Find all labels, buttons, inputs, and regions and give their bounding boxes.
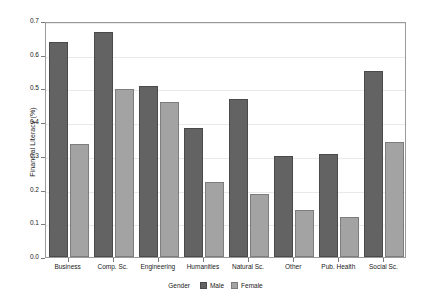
bar [274, 156, 293, 257]
y-tick: 0.0 [0, 258, 45, 259]
y-tick: 0.5 [0, 89, 45, 90]
y-tick: 0.6 [0, 56, 45, 57]
bar [160, 102, 179, 257]
plot-area [45, 22, 406, 258]
bar-chart: Financial Literacy (%) 0.00.10.20.30.40.… [0, 0, 431, 307]
bar [319, 154, 338, 257]
x-tick-label: Business [54, 263, 80, 270]
y-tick: 0.2 [0, 191, 45, 192]
y-tick: 0.1 [0, 224, 45, 225]
bar [70, 144, 89, 257]
legend-label-female: Female [241, 282, 263, 289]
x-tick-mark [203, 258, 204, 262]
legend-label-male: Male [210, 282, 224, 289]
y-tick-label: 0.5 [30, 84, 39, 91]
x-tick-label: Pub. Health [321, 263, 355, 270]
gridline [46, 23, 405, 24]
legend-swatch-female-icon [231, 282, 238, 289]
x-tick-label: Social Sc. [369, 263, 398, 270]
y-tick-label: 0.1 [30, 219, 39, 226]
bar [49, 42, 68, 257]
x-tick-label: Humanities [187, 263, 220, 270]
y-tick: 0.7 [0, 22, 45, 23]
bar [184, 128, 203, 257]
y-tick: 0.3 [0, 157, 45, 158]
x-tick-mark [248, 258, 249, 262]
y-tick-mark [41, 258, 45, 259]
bar [295, 210, 314, 257]
bar [94, 32, 113, 257]
x-tick-mark [158, 258, 159, 262]
x-tick-label: Comp. Sc. [98, 263, 128, 270]
bar [364, 71, 383, 257]
bar [229, 99, 248, 257]
legend-entry-female[interactable]: Female [231, 282, 263, 289]
x-tick-label: Natural Sc. [232, 263, 264, 270]
y-tick-label: 0.4 [30, 118, 39, 125]
x-tick-label: Engineering [140, 263, 175, 270]
x-tick-mark [113, 258, 114, 262]
y-tick-label: 0.3 [30, 152, 39, 159]
y-tick-label: 0.0 [30, 253, 39, 260]
y-tick: 0.4 [0, 123, 45, 124]
legend-swatch-male-icon [200, 282, 207, 289]
y-tick-label: 0.7 [30, 17, 39, 24]
bar [115, 89, 134, 257]
legend-title: Gender [168, 282, 190, 289]
x-tick-mark [383, 258, 384, 262]
bar [385, 142, 404, 257]
bar [250, 194, 269, 257]
x-tick-mark [68, 258, 69, 262]
bar [205, 182, 224, 257]
legend-entry-male[interactable]: Male [200, 282, 224, 289]
plot-inner [46, 23, 405, 257]
legend: Gender Male Female [0, 278, 431, 292]
bar [139, 86, 158, 257]
y-tick-label: 0.6 [30, 51, 39, 58]
bar [340, 217, 359, 257]
x-tick-mark [293, 258, 294, 262]
x-tick-mark [338, 258, 339, 262]
y-tick-label: 0.2 [30, 186, 39, 193]
x-tick-label: Other [285, 263, 301, 270]
